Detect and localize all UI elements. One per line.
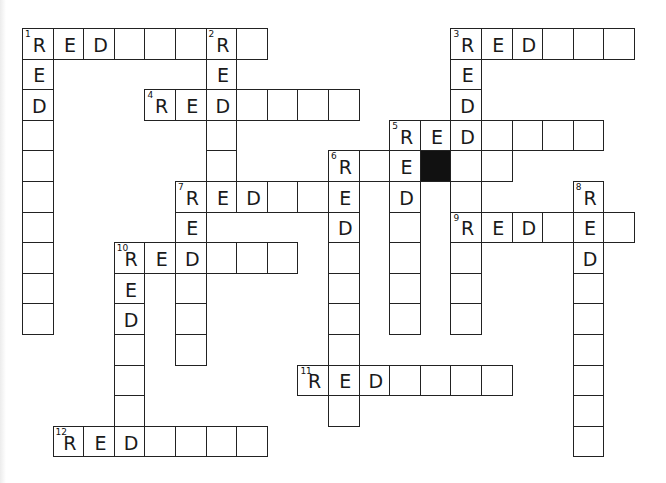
crossword-cell[interactable] <box>175 273 207 305</box>
crossword-cell[interactable]: E <box>22 59 54 91</box>
crossword-cell[interactable]: E <box>389 150 421 182</box>
crossword-cell[interactable]: 3R <box>450 28 482 60</box>
crossword-cell[interactable] <box>328 242 360 274</box>
crossword-cell[interactable] <box>573 120 605 152</box>
crossword-cell[interactable]: E <box>328 365 360 397</box>
crossword-cell[interactable] <box>206 242 238 274</box>
crossword-cell[interactable]: E <box>114 273 146 305</box>
crossword-cell[interactable] <box>328 303 360 335</box>
crossword-cell[interactable]: 4R <box>144 89 176 121</box>
crossword-cell[interactable]: E <box>481 212 513 244</box>
crossword-cell[interactable] <box>267 181 299 213</box>
crossword-cell[interactable] <box>206 150 238 182</box>
crossword-cell[interactable] <box>297 181 329 213</box>
crossword-cell[interactable]: 10R <box>114 242 146 274</box>
crossword-cell[interactable]: D <box>359 365 391 397</box>
crossword-cell[interactable] <box>389 303 421 335</box>
crossword-cell[interactable]: 7R <box>175 181 207 213</box>
crossword-cell[interactable] <box>512 120 544 152</box>
crossword-cell[interactable] <box>114 365 146 397</box>
crossword-cell[interactable]: E <box>573 212 605 244</box>
crossword-cell[interactable]: D <box>114 303 146 335</box>
crossword-cell[interactable] <box>22 181 54 213</box>
crossword-cell[interactable] <box>22 212 54 244</box>
crossword-cell[interactable] <box>573 426 605 458</box>
crossword-cell[interactable]: D <box>83 28 115 60</box>
crossword-cell[interactable] <box>114 334 146 366</box>
crossword-cell[interactable] <box>603 28 635 60</box>
crossword-cell[interactable] <box>573 28 605 60</box>
crossword-cell[interactable] <box>297 89 329 121</box>
crossword-cell[interactable]: 1R <box>22 28 54 60</box>
crossword-cell[interactable] <box>603 212 635 244</box>
crossword-cell[interactable] <box>114 395 146 427</box>
crossword-cell[interactable] <box>573 395 605 427</box>
crossword-cell[interactable] <box>450 365 482 397</box>
crossword-cell[interactable] <box>267 89 299 121</box>
crossword-cell[interactable] <box>573 365 605 397</box>
crossword-cell[interactable] <box>175 303 207 335</box>
crossword-cell[interactable]: D <box>512 212 544 244</box>
crossword-cell[interactable]: D <box>450 120 482 152</box>
crossword-cell[interactable] <box>450 303 482 335</box>
crossword-cell[interactable] <box>22 273 54 305</box>
crossword-cell[interactable] <box>267 242 299 274</box>
crossword-cell[interactable] <box>389 212 421 244</box>
crossword-cell[interactable] <box>206 426 238 458</box>
crossword-cell[interactable] <box>144 28 176 60</box>
crossword-cell[interactable]: D <box>175 242 207 274</box>
crossword-cell[interactable] <box>236 242 268 274</box>
crossword-cell[interactable] <box>450 273 482 305</box>
crossword-cell[interactable] <box>22 120 54 152</box>
crossword-cell[interactable] <box>328 395 360 427</box>
crossword-cell[interactable]: E <box>328 181 360 213</box>
crossword-cell[interactable] <box>22 150 54 182</box>
crossword-cell[interactable] <box>389 273 421 305</box>
crossword-cell[interactable]: D <box>114 426 146 458</box>
crossword-cell[interactable] <box>175 334 207 366</box>
crossword-cell[interactable]: E <box>175 212 207 244</box>
crossword-cell[interactable]: D <box>450 89 482 121</box>
crossword-cell[interactable] <box>22 303 54 335</box>
crossword-cell[interactable] <box>481 120 513 152</box>
crossword-cell[interactable]: D <box>328 212 360 244</box>
crossword-cell[interactable]: 12R <box>53 426 85 458</box>
crossword-cell[interactable]: E <box>144 242 176 274</box>
crossword-cell[interactable] <box>22 242 54 274</box>
crossword-cell[interactable] <box>389 242 421 274</box>
crossword-cell[interactable]: E <box>450 59 482 91</box>
crossword-cell[interactable]: 11R <box>297 365 329 397</box>
crossword-cell[interactable]: E <box>83 426 115 458</box>
crossword-cell[interactable] <box>328 89 360 121</box>
crossword-cell[interactable] <box>481 150 513 182</box>
crossword-cell[interactable] <box>359 150 391 182</box>
crossword-cell[interactable] <box>114 28 146 60</box>
crossword-cell[interactable] <box>542 212 574 244</box>
crossword-cell[interactable] <box>236 28 268 60</box>
crossword-cell[interactable]: D <box>236 181 268 213</box>
crossword-cell[interactable]: D <box>389 181 421 213</box>
crossword-cell[interactable] <box>175 28 207 60</box>
crossword-cell[interactable]: 8R <box>573 181 605 213</box>
crossword-cell[interactable] <box>450 242 482 274</box>
crossword-cell[interactable] <box>175 426 207 458</box>
crossword-cell[interactable] <box>573 334 605 366</box>
crossword-cell[interactable] <box>542 28 574 60</box>
crossword-cell[interactable]: D <box>22 89 54 121</box>
crossword-cell[interactable]: D <box>573 242 605 274</box>
crossword-cell[interactable] <box>206 120 238 152</box>
crossword-cell[interactable]: 9R <box>450 212 482 244</box>
crossword-cell[interactable]: E <box>206 181 238 213</box>
crossword-cell[interactable] <box>144 426 176 458</box>
crossword-cell[interactable]: E <box>481 28 513 60</box>
crossword-cell[interactable] <box>328 273 360 305</box>
crossword-cell[interactable]: E <box>420 120 452 152</box>
crossword-cell[interactable]: E <box>175 89 207 121</box>
crossword-cell[interactable] <box>573 303 605 335</box>
crossword-cell[interactable]: 5R <box>389 120 421 152</box>
crossword-cell[interactable] <box>481 365 513 397</box>
crossword-cell[interactable] <box>573 273 605 305</box>
crossword-cell[interactable]: E <box>206 59 238 91</box>
crossword-cell[interactable] <box>236 89 268 121</box>
crossword-cell[interactable] <box>542 120 574 152</box>
